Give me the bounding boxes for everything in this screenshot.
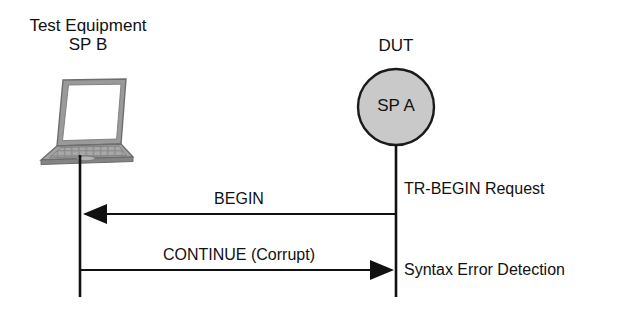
annotation-tr-begin-request: TR-BEGIN Request [404, 180, 544, 198]
message-label-continue: CONTINUE (Corrupt) [84, 246, 394, 264]
sequence-diagram: Test Equipment SP B DUT SP A BEGIN CONTI… [0, 0, 643, 314]
message-label-begin: BEGIN [84, 190, 394, 208]
actor-label-dut: DUT [346, 36, 446, 55]
actor-label-test-equipment: Test Equipment SP B [0, 16, 176, 54]
annotation-syntax-error-detection: Syntax Error Detection [404, 261, 565, 279]
dut-node-label: SP A [346, 96, 446, 115]
actor-label-line2: SP B [0, 35, 176, 54]
laptop-icon [41, 79, 133, 165]
actor-label-line1: Test Equipment [29, 16, 146, 35]
